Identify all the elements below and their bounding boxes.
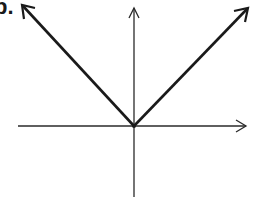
curve-right-branch xyxy=(134,8,248,126)
curve-left-branch xyxy=(22,5,134,126)
absolute-value-graph xyxy=(0,0,266,213)
vertex-point xyxy=(132,124,136,128)
y-axis xyxy=(129,8,139,197)
